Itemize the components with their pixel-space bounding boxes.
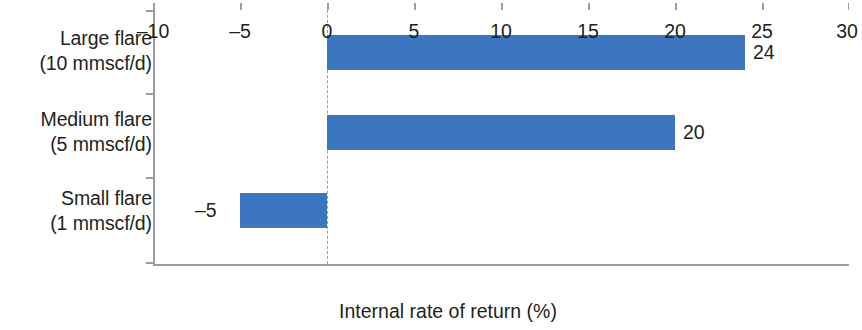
plot-area: 24 20 –5 –10 –5 0 5 10 15 20 25 30 (153, 10, 849, 264)
x-axis-label: –5 (210, 20, 270, 43)
x-axis-tick (240, 3, 242, 10)
y-axis-tick (146, 177, 153, 179)
x-axis-label: 20 (645, 20, 705, 43)
category-label-line1: Small flare (0, 186, 152, 211)
category-label-line2: (10 mmscf/d) (0, 51, 152, 76)
x-axis-tick (414, 3, 416, 10)
bar-small-flare (240, 193, 327, 228)
x-axis-label: 25 (732, 20, 792, 43)
bar-medium-flare (327, 115, 675, 150)
y-axis-line (153, 10, 155, 264)
x-axis-tick (501, 3, 503, 10)
bar-value-medium-flare: 20 (683, 115, 705, 150)
x-axis-label: 0 (297, 20, 357, 43)
y-axis-tick (146, 262, 153, 264)
x-axis-title-text: Internal rate of return (%) (339, 300, 557, 322)
x-axis-tick (327, 3, 329, 10)
x-axis-tick (153, 3, 155, 10)
y-axis-tick (146, 93, 153, 95)
x-axis-label: 15 (558, 20, 618, 43)
x-axis-label: –10 (123, 20, 183, 43)
category-label-medium-flare: Medium flare (5 mmscf/d) (0, 107, 152, 157)
y-axis-tick (146, 10, 153, 12)
bar-value-small-flare: –5 (195, 193, 217, 228)
x-axis-line (153, 264, 849, 266)
category-label-small-flare: Small flare (1 mmscf/d) (0, 186, 152, 236)
category-label-line1: Medium flare (0, 107, 152, 132)
x-axis-label: 30 (817, 20, 862, 43)
category-label-line2: (1 mmscf/d) (0, 211, 152, 236)
x-axis-tick (762, 3, 764, 10)
x-axis-label: 5 (384, 20, 444, 43)
x-axis-label: 10 (471, 20, 531, 43)
x-axis-title: Internal rate of return (%) (0, 300, 850, 323)
x-axis-tick (848, 3, 850, 10)
category-label-line2: (5 mmscf/d) (0, 132, 152, 157)
x-axis-tick (588, 3, 590, 10)
x-axis-tick (675, 3, 677, 10)
